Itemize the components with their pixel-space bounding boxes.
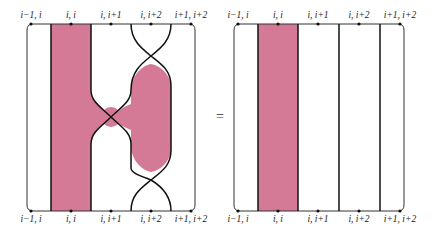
label: i, i+2 <box>348 214 369 224</box>
left-diagram: i−1, i i, i i, i+1 i, i+2 i+1, i+2 i−1, … <box>20 10 207 224</box>
diagram-canvas: i−1, i i, i i, i+1 i, i+2 i+1, i+2 i−1, … <box>0 0 437 237</box>
label: i+1, i+2 <box>384 10 417 20</box>
bottom-labels-left: i−1, i i, i i, i+1 i, i+2 i+1, i+2 <box>20 214 207 224</box>
equals-sign: = <box>216 109 224 124</box>
label: i, i <box>273 10 283 20</box>
label: i, i+1 <box>100 10 121 20</box>
label: i, i+1 <box>307 214 328 224</box>
label: i, i+2 <box>348 10 369 20</box>
label: i+1, i+2 <box>175 10 208 20</box>
label: i−1, i <box>20 10 42 20</box>
label: i+1, i+2 <box>384 214 417 224</box>
right-diagram: i−1, i i, i i, i+1 i, i+2 i+1, i+2 i−1, … <box>227 10 416 224</box>
label: i, i+1 <box>100 214 121 224</box>
shaded-region-right <box>258 24 298 211</box>
bottom-labels-right: i−1, i i, i i, i+1 i, i+2 i+1, i+2 <box>227 214 416 224</box>
label: i, i+2 <box>140 10 161 20</box>
label: i+1, i+2 <box>175 214 208 224</box>
label: i, i <box>273 214 283 224</box>
label: i−1, i <box>227 10 249 20</box>
top-labels-right: i−1, i i, i i, i+1 i, i+2 i+1, i+2 <box>227 10 416 20</box>
label: i, i+1 <box>307 10 328 20</box>
label: i, i <box>66 214 76 224</box>
label: i−1, i <box>20 214 42 224</box>
label: i, i <box>66 10 76 20</box>
label: i−1, i <box>227 214 249 224</box>
top-labels-left: i−1, i i, i i, i+1 i, i+2 i+1, i+2 <box>20 10 207 20</box>
label: i, i+2 <box>140 214 161 224</box>
